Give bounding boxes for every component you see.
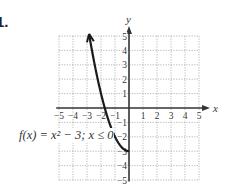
y-tick-label: 1 — [122, 89, 127, 99]
y-tick-label: 2 — [122, 75, 127, 85]
x-tick-label: 5 — [197, 111, 202, 121]
x-axis-arrow-icon — [202, 105, 210, 111]
function-label: f(x) = x² − 3; x ≤ 0 — [18, 128, 114, 143]
y-tick-label: −4 — [117, 161, 127, 171]
x-tick-label: 3 — [169, 111, 174, 121]
x-tick-label: 1 — [141, 111, 146, 121]
y-tick-label: −5 — [117, 176, 127, 186]
x-axis-label: x — [212, 102, 218, 114]
y-axis-label: y — [125, 13, 131, 25]
x-tick-label: −2 — [96, 111, 106, 121]
x-tick-label: −5 — [54, 111, 64, 121]
x-tick-label: 4 — [183, 111, 188, 121]
x-tick-label: −3 — [82, 111, 92, 121]
y-tick-label: 5 — [122, 32, 127, 42]
y-tick-label: −1 — [117, 118, 127, 128]
function-graph: xy−5−4−3−2−11234554321−1−2−3−4−5 — [0, 0, 228, 187]
y-tick-label: 3 — [122, 60, 127, 70]
y-tick-label: −2 — [117, 132, 127, 142]
x-tick-label: −4 — [68, 111, 78, 121]
y-tick-label: 4 — [122, 46, 127, 56]
x-tick-label: 2 — [155, 111, 160, 121]
